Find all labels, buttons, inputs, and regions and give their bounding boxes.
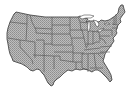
- us-map: [0, 0, 136, 92]
- us-outline: [7, 5, 125, 86]
- us-map-svg: [0, 0, 136, 92]
